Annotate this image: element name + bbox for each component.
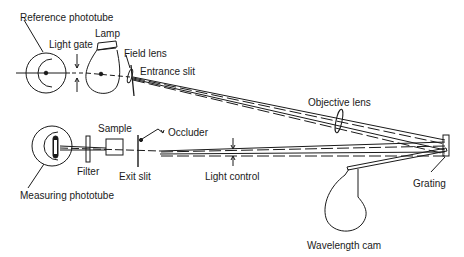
label-measuring-phototube: Measuring phototube — [20, 190, 114, 202]
light-control-arrows-icon — [231, 138, 235, 166]
label-field-lens: Field lens — [124, 48, 167, 60]
grating-icon — [443, 135, 449, 156]
label-entrance-slit: Entrance slit — [140, 66, 195, 78]
light-beams-icon — [133, 77, 445, 156]
label-reference-phototube: Reference phototube — [20, 12, 113, 24]
spectrophotometer-diagram: Reference phototube Light gate Lamp Fiel… — [0, 0, 464, 257]
reference-phototube-leader — [24, 20, 43, 52]
occluder-leader — [142, 129, 163, 139]
label-exit-slit: Exit slit — [119, 171, 151, 183]
measuring-phototube-leader — [28, 164, 44, 188]
label-light-gate: Light gate — [49, 39, 93, 51]
occluder-arrow — [161, 130, 164, 133]
label-wavelength-cam: Wavelength cam — [307, 240, 381, 252]
label-sample: Sample — [98, 123, 132, 135]
sample-icon — [106, 139, 123, 155]
label-light-control: Light control — [205, 171, 259, 183]
grating-leader — [431, 157, 445, 172]
label-objective-lens: Objective lens — [308, 97, 371, 109]
label-occluder: Occluder — [168, 127, 208, 139]
label-lamp: Lamp — [95, 28, 120, 40]
label-grating: Grating — [413, 178, 446, 190]
label-filter: Filter — [77, 166, 99, 178]
